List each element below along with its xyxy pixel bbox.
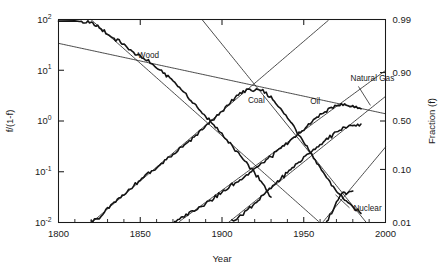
y2-tick-label: 0.10 [393, 164, 412, 175]
y-tick-label: 10-2 [35, 216, 52, 228]
data-line-wood [59, 21, 272, 197]
x-axis-tick-labels: 18001850190019502000 [48, 228, 396, 239]
series-label-wood: Wood [138, 51, 160, 60]
series-label-nuclear: Nuclear [353, 204, 381, 213]
y2-tick-label: 0.50 [393, 115, 412, 126]
y2-tick-label: 0.01 [393, 217, 412, 228]
series-label-coal: Coal [248, 96, 265, 105]
y-tick-label: 102 [37, 13, 52, 25]
fit-line-coal [202, 20, 366, 222]
chart-canvas: 18001850190019502000 10210110010-110-2 0… [0, 0, 446, 274]
y2-axis-title: Fraction (f) [426, 98, 437, 144]
fit-line-wood [91, 20, 318, 222]
y-axis-right-ticks [380, 20, 386, 223]
y-axis-right-tick-labels: 0.990.900.500.100.01 [393, 14, 412, 228]
x-tick-label: 1800 [48, 228, 69, 239]
y2-tick-label: 0.90 [393, 67, 412, 78]
x-tick-label: 1850 [130, 228, 151, 239]
data-line-nuclear [327, 191, 353, 221]
y-axis-title: f/(1-f) [4, 110, 15, 133]
series-label-oil: Oil [310, 97, 320, 106]
y-axis-left-ticks [59, 20, 65, 223]
y-tick-label: 101 [37, 63, 52, 75]
leader-natural-gas [358, 86, 370, 105]
y-axis-left-tick-labels: 10210110010-110-2 [35, 13, 52, 228]
x-tick-label: 1900 [211, 228, 232, 239]
x-tick-label: 2000 [375, 228, 396, 239]
y-tick-label: 100 [37, 114, 52, 126]
series-label-natural-gas: Natural Gas [351, 74, 395, 83]
fit-line-oil [59, 43, 386, 113]
x-tick-label: 1950 [293, 228, 314, 239]
figure-energy-substitution: 18001850190019502000 10210110010-110-2 0… [0, 0, 446, 274]
data-line-oil [175, 104, 361, 222]
x-axis-title: Year [212, 253, 231, 264]
data-line-coal [91, 89, 361, 222]
y2-tick-label: 0.99 [393, 14, 412, 25]
y-tick-label: 10-1 [35, 165, 52, 177]
